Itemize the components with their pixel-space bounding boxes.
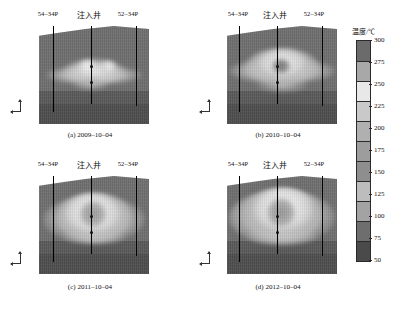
well-line-right-a: [136, 26, 137, 106]
well-label-center-a: 注入井: [72, 9, 106, 20]
colorbar-tick-label-150: 150: [374, 168, 385, 176]
colorbar-tick-label-75: 75: [374, 234, 381, 242]
colorbar-band-10: [357, 241, 370, 261]
colorbar-gradient: [356, 40, 371, 262]
well-label-right-a: 52–34P: [108, 10, 148, 17]
colorbar-tick-mark-200: [369, 128, 372, 129]
figure-canvas: 54–34P 注入井 52–34P (: [0, 0, 401, 309]
orientation-marker-a: [10, 98, 30, 114]
panel-b-plot: [227, 26, 337, 124]
colorbar-tick-label-200: 200: [374, 124, 385, 132]
colorbar-tick-mark-125: [369, 194, 372, 195]
panel-b-heatmap-image: [227, 26, 337, 124]
well-marker-center-upper-c: [90, 215, 93, 218]
well-marker-center-upper-a: [90, 65, 93, 68]
colorbar-tick-label-175: 175: [374, 146, 385, 154]
well-label-left-d: 54–34P: [218, 160, 258, 167]
colorbar-tick-label-125: 125: [374, 190, 385, 198]
orientation-marker-c: [10, 250, 30, 266]
colorbar-band-8: [357, 201, 370, 221]
panel-b-caption: (b) 2010–10–04: [218, 131, 338, 139]
panel-a-plot: [39, 26, 149, 124]
colorbar-tick-label-300: 300: [374, 36, 385, 44]
colorbar-tick-mark-175: [369, 150, 372, 151]
colorbar-band-4: [357, 121, 370, 141]
well-label-left-c: 54–34P: [28, 160, 68, 167]
panel-c-plot: [39, 176, 149, 274]
well-line-left-d: [239, 176, 240, 262]
colorbar-band-0: [357, 41, 370, 61]
panel-a-caption: (a) 2009–10–04: [30, 131, 150, 139]
colorbar-title: 温度/℃: [352, 26, 375, 36]
panel-a: 54–34P 注入井 52–34P (: [10, 8, 170, 150]
panel-a-heatmap-image: [39, 26, 149, 124]
well-label-center-b: 注入井: [258, 9, 292, 20]
well-marker-center-lower-b: [276, 81, 279, 84]
colorbar-band-3: [357, 101, 370, 121]
colorbar-tick-label-225: 225: [374, 102, 385, 110]
colorbar-tick-label-275: 275: [374, 58, 385, 66]
colorbar-tick-mark-75: [369, 238, 372, 239]
colorbar-tick-mark-300: [369, 40, 372, 41]
well-label-right-d: 52–34P: [294, 160, 334, 167]
well-label-left-b: 54–34P: [218, 10, 258, 17]
well-label-right-b: 52–34P: [294, 10, 334, 17]
colorbar-band-1: [357, 61, 370, 81]
colorbar-tick-label-50: 50: [374, 256, 381, 264]
well-marker-center-lower-d: [276, 231, 279, 234]
orientation-marker-d: [199, 250, 219, 266]
colorbar-tick-mark-50: [369, 260, 372, 261]
colorbar-tick-mark-250: [369, 84, 372, 85]
colorbar-band-6: [357, 161, 370, 181]
colorbar-tick-mark-150: [369, 172, 372, 173]
well-marker-center-upper-d: [276, 215, 279, 218]
colorbar-band-5: [357, 141, 370, 161]
well-label-left-a: 54–34P: [28, 10, 68, 17]
colorbar-band-7: [357, 181, 370, 201]
panel-d: 54–34P 注入井 52–34P (: [200, 158, 360, 304]
well-label-right-c: 52–34P: [108, 160, 148, 167]
orientation-marker-b: [199, 98, 219, 114]
colorbar-tick-mark-225: [369, 106, 372, 107]
panel-c-heatmap-image: [39, 176, 149, 274]
well-line-right-b: [322, 26, 323, 106]
well-label-center-d: 注入井: [258, 159, 292, 170]
panel-d-plot: [227, 176, 337, 274]
colorbar-tick-mark-275: [369, 62, 372, 63]
well-marker-center-upper-b: [276, 65, 279, 68]
well-marker-center-lower-a: [90, 81, 93, 84]
colorbar-tick-label-250: 250: [374, 80, 385, 88]
well-line-left-b: [239, 26, 240, 112]
well-line-right-c: [136, 176, 137, 256]
panel-d-caption: (d) 2012–10–04: [218, 283, 338, 291]
panel-d-heatmap-image: [227, 176, 337, 274]
panel-b: 54–34P 注入井 52–34P (: [200, 8, 360, 150]
colorbar-tick-label-100: 100: [374, 212, 385, 220]
well-line-right-d: [322, 176, 323, 256]
panel-c: 54–34P 注入井 52–34P (: [10, 158, 170, 304]
colorbar: 温度/℃ 3002752502252001751501251007550: [344, 26, 401, 276]
well-line-left-c: [53, 176, 54, 262]
well-marker-center-lower-c: [90, 231, 93, 234]
well-line-left-a: [53, 26, 54, 112]
panel-c-caption: (c) 2011–10–04: [30, 283, 150, 291]
well-label-center-c: 注入井: [72, 159, 106, 170]
colorbar-tick-mark-100: [369, 216, 372, 217]
